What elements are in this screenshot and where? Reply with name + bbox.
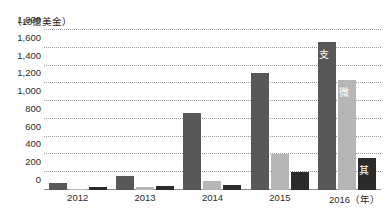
bar	[136, 187, 154, 190]
x-axis-tick: 2013	[135, 192, 156, 203]
bar-group: 支付寶微信支付其他	[314, 30, 381, 190]
y-axis-tick: 1,000	[1, 85, 41, 96]
y-axis-tick-labels: 02004006008001,0001,2001,4001,6001,800	[0, 30, 41, 190]
bar	[49, 183, 67, 190]
y-axis-tick: 0	[1, 174, 41, 185]
y-axis-tick: 1,200	[1, 67, 41, 78]
bar	[223, 185, 241, 190]
bar	[69, 189, 87, 190]
y-axis-tick: 1,600	[1, 31, 41, 42]
y-axis-tick: 800	[1, 102, 41, 113]
bar	[89, 187, 107, 190]
y-axis-tick: 400	[1, 138, 41, 149]
bar-chart: （10億美金） 02004006008001,0001,2001,4001,60…	[0, 0, 387, 220]
x-axis-tick: 2016（年）	[329, 192, 380, 206]
y-axis-tick: 600	[1, 120, 41, 131]
bar-group	[246, 30, 313, 190]
bar	[271, 154, 289, 190]
bar-group	[179, 30, 246, 190]
bar	[251, 73, 269, 190]
bar-group	[111, 30, 178, 190]
bar	[203, 181, 221, 190]
bar	[183, 113, 201, 190]
y-axis-tick: 200	[1, 156, 41, 167]
y-axis-tick: 1,400	[1, 49, 41, 60]
bar: 支付寶	[318, 42, 336, 190]
x-axis-tick: 2014	[202, 192, 223, 203]
bar	[116, 176, 134, 190]
x-axis-tick-labels: 20122013201420152016（年）	[44, 192, 381, 212]
x-axis-tick: 2015	[269, 192, 290, 203]
bar: 微信支付	[338, 80, 356, 190]
plot-area: 支付寶微信支付其他	[44, 30, 381, 190]
bar-group	[44, 30, 111, 190]
bar	[156, 186, 174, 190]
bar	[291, 172, 309, 190]
x-axis-unit-label: （年）	[350, 194, 380, 205]
bar: 其他	[358, 158, 376, 190]
y-axis-tick: 1,800	[1, 14, 41, 25]
x-axis-tick: 2012	[67, 192, 88, 203]
